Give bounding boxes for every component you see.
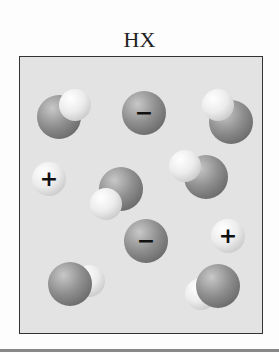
positive-charge-icon: + [32, 162, 66, 196]
h-cation-icon: + [211, 219, 245, 253]
h-atom-icon [202, 89, 234, 121]
x-atom-icon [196, 264, 240, 308]
figure-title: HX [0, 27, 279, 53]
h-atom-icon [59, 89, 91, 121]
negative-charge-icon: − [124, 219, 168, 263]
x-anion-icon: − [124, 219, 168, 263]
divider [0, 349, 279, 352]
x-anion-icon: − [122, 91, 166, 135]
solution-box: − + − + [19, 56, 263, 334]
h-atom-icon [169, 150, 201, 182]
x-atom-icon [48, 262, 92, 306]
h-atom-icon [90, 188, 122, 220]
positive-charge-icon: + [211, 219, 245, 253]
negative-charge-icon: − [122, 91, 166, 135]
h-cation-icon: + [32, 162, 66, 196]
